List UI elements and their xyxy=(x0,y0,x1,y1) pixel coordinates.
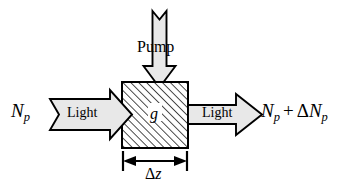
photon-flux-out-delta: Δ xyxy=(297,100,309,121)
gain-coefficient-label: g xyxy=(150,106,158,122)
photon-flux-in-subscript: p xyxy=(24,110,30,124)
diagram-canvas xyxy=(0,0,353,192)
thickness-variable: z xyxy=(155,165,161,182)
photon-flux-out-subscript: p xyxy=(274,110,280,124)
pump-label: Pump xyxy=(137,39,174,55)
gain-medium-diagram: Np Np+ΔNp Pump Light Light g Δz xyxy=(0,0,353,192)
photon-flux-out-delta-symbol: N xyxy=(309,100,322,121)
photon-flux-in-label: Np xyxy=(11,101,30,124)
photon-flux-out-symbol: N xyxy=(261,100,274,121)
photon-flux-out-delta-subscript: p xyxy=(322,110,328,124)
thickness-delta: Δ xyxy=(145,165,155,182)
thickness-label: Δz xyxy=(145,166,162,182)
photon-flux-out-operator: + xyxy=(280,100,297,121)
photon-flux-out-label: Np+ΔNp xyxy=(261,101,328,124)
light-out-label: Light xyxy=(202,106,232,120)
light-in-label: Light xyxy=(67,106,97,120)
photon-flux-in-symbol: N xyxy=(11,100,24,121)
